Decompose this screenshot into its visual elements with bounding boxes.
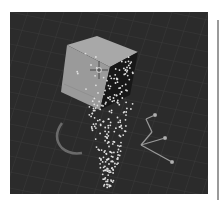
particle — [105, 161, 107, 163]
particle — [108, 171, 110, 173]
particle — [108, 163, 110, 165]
particle — [111, 110, 113, 112]
particle — [108, 146, 110, 148]
particle — [85, 88, 87, 90]
particle — [125, 84, 127, 86]
particle — [98, 149, 100, 151]
particle — [117, 154, 119, 156]
cube-mesh[interactable] — [61, 36, 138, 110]
particle — [117, 81, 119, 83]
particle — [107, 135, 109, 137]
particle — [111, 112, 113, 114]
particle — [110, 180, 112, 182]
particle — [96, 146, 98, 148]
particle — [127, 75, 129, 77]
particle — [118, 149, 120, 151]
particle — [119, 119, 121, 121]
particle — [112, 168, 114, 170]
particle — [123, 74, 125, 76]
particle — [90, 116, 92, 118]
grid-line — [22, 12, 82, 194]
particle — [104, 127, 106, 129]
particle — [114, 94, 116, 96]
particle — [119, 121, 121, 123]
particle — [94, 75, 96, 77]
particle — [93, 123, 95, 125]
particle — [99, 108, 101, 110]
particle — [123, 112, 125, 114]
particle — [91, 126, 93, 128]
panel-divider[interactable] — [217, 20, 219, 200]
particle — [130, 61, 132, 63]
particle — [93, 108, 95, 110]
particle — [95, 56, 97, 58]
particle — [119, 155, 121, 157]
particle — [119, 69, 121, 71]
particle — [104, 130, 106, 132]
particle — [118, 87, 120, 89]
particle — [95, 127, 97, 129]
grid-line — [10, 188, 208, 194]
particle — [94, 98, 96, 100]
particle — [101, 149, 103, 151]
particle — [89, 106, 91, 108]
particle — [119, 135, 121, 137]
particle — [117, 99, 119, 101]
particle — [110, 161, 112, 163]
particle — [77, 73, 79, 75]
particle — [107, 179, 109, 181]
particle — [114, 166, 116, 168]
particle — [104, 136, 106, 138]
grid-line — [10, 12, 46, 194]
particle — [112, 141, 114, 143]
vortex-force-field-arc[interactable] — [57, 123, 82, 153]
particle — [119, 126, 121, 128]
particle — [121, 128, 123, 130]
particle — [95, 138, 97, 140]
particle — [121, 61, 123, 63]
particle — [114, 163, 116, 165]
particle — [125, 61, 127, 63]
viewport-canvas[interactable] — [10, 12, 208, 194]
particle — [113, 131, 115, 133]
particle — [115, 68, 117, 70]
particle — [103, 121, 105, 123]
particle — [121, 97, 123, 99]
particle — [100, 167, 102, 169]
particle — [94, 126, 96, 128]
particle — [109, 75, 111, 77]
particle — [125, 111, 127, 113]
particle — [121, 85, 123, 87]
particle — [121, 91, 123, 93]
particle — [103, 170, 105, 172]
particle — [117, 158, 119, 160]
particle — [101, 105, 103, 107]
particle — [125, 101, 127, 103]
particle — [108, 118, 110, 120]
3d-viewport[interactable] — [10, 12, 208, 194]
particle — [97, 92, 99, 94]
grid-line — [130, 12, 190, 194]
particle — [108, 97, 110, 99]
particle — [107, 125, 109, 127]
particle — [116, 163, 118, 165]
particle — [94, 110, 96, 112]
particle — [126, 71, 128, 73]
particle — [104, 140, 106, 142]
particle — [103, 156, 105, 158]
particle — [114, 74, 116, 76]
particle — [109, 96, 111, 98]
particle — [91, 128, 93, 130]
particle — [108, 127, 110, 129]
particle — [116, 95, 118, 97]
particle — [85, 53, 87, 55]
particle — [120, 145, 122, 147]
particle — [119, 93, 121, 95]
particle — [92, 100, 94, 102]
particle — [123, 68, 125, 70]
particle — [110, 77, 112, 79]
particle — [109, 170, 111, 172]
particle — [128, 60, 130, 62]
particle — [106, 136, 108, 138]
particle — [95, 123, 97, 125]
